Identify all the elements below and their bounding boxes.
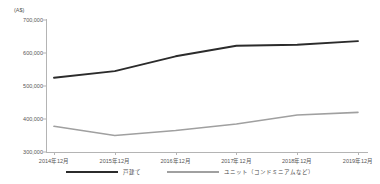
series-line [54,112,358,135]
legend-item[interactable]: 戸建て [66,168,141,176]
legend-label: 戸建て [123,168,141,176]
legend-swatch [66,171,118,173]
legend-label: ユニット（コンドミニアムなど） [224,168,314,176]
legend-item[interactable]: ユニット（コンドミニアムなど） [167,168,314,176]
line-chart: (A$) 300,000400,000500,000600,000700,000… [0,0,380,184]
legend-swatch [167,171,219,173]
chart-legend: 戸建てユニット（コンドミニアムなど） [0,168,380,176]
series-lines [0,0,380,184]
series-line [54,41,358,78]
